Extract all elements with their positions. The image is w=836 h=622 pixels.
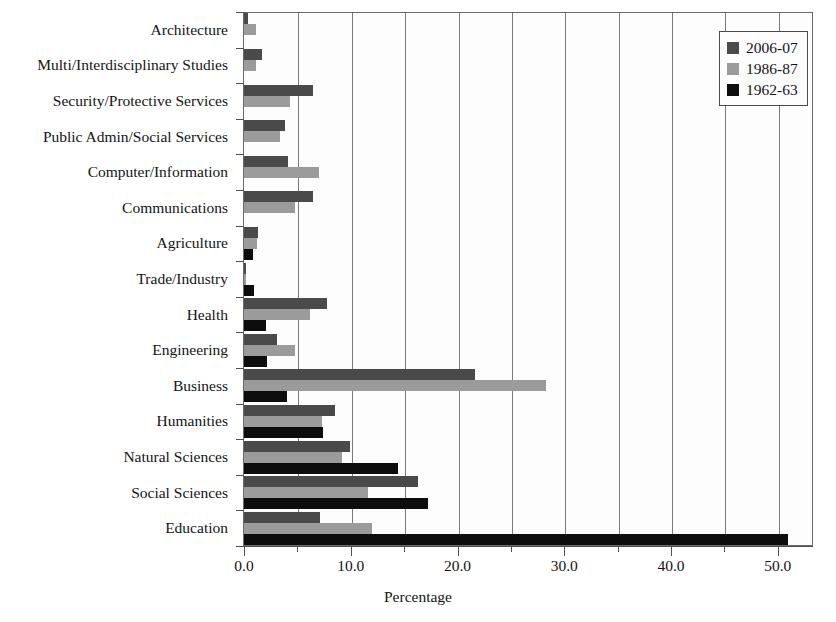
x-axis-minor-tick [618, 546, 619, 552]
legend-label: 2006-07 [746, 39, 798, 56]
legend-entry-2006-07: 2006-07 [727, 37, 798, 58]
y-axis-tick [236, 48, 244, 49]
y-axis-tick [236, 190, 244, 191]
bar [244, 227, 258, 238]
bar [244, 334, 277, 345]
bar [244, 369, 475, 380]
y-axis-tick [236, 119, 244, 120]
category-axis-labels: ArchitectureMulti/Interdisciplinary Stud… [0, 12, 236, 546]
y-axis-tick [236, 546, 244, 547]
bar [244, 49, 262, 60]
x-axis-tick-label: 20.0 [444, 557, 471, 575]
y-axis-tick [236, 226, 244, 227]
category-label: Humanities [157, 413, 228, 429]
bar [244, 523, 372, 534]
dark-gray-swatch [727, 42, 739, 54]
x-axis-line [243, 546, 813, 547]
y-axis-tick [236, 475, 244, 476]
bar-chart: ArchitectureMulti/Interdisciplinary Stud… [0, 0, 836, 622]
bar [244, 249, 253, 260]
category-label: Business [173, 378, 228, 394]
category-label: Trade/Industry [136, 271, 228, 287]
bar [244, 463, 398, 474]
bar [244, 167, 319, 178]
x-axis-tick-label: 0.0 [234, 557, 253, 575]
bar [244, 356, 267, 367]
bar [244, 202, 295, 213]
category-label: Social Sciences [131, 485, 228, 501]
bar [244, 85, 313, 96]
bar [244, 156, 288, 167]
x-axis-major-tick [671, 546, 672, 556]
y-axis-tick [236, 404, 244, 405]
bar [244, 274, 246, 285]
category-label: Agriculture [157, 235, 228, 251]
category-label: Natural Sciences [123, 449, 228, 465]
y-axis-tick [236, 368, 244, 369]
bar [244, 60, 256, 71]
category-label: Health [187, 307, 228, 323]
bar [244, 476, 418, 487]
bar [244, 534, 788, 545]
legend-entry-1962-63: 1962-63 [727, 79, 798, 100]
x-axis-minor-tick [724, 546, 725, 552]
y-axis-tick [236, 510, 244, 511]
legend: 2006-07 1986-87 1962-63 [719, 31, 808, 106]
y-axis-tick [236, 154, 244, 155]
bar [244, 416, 322, 427]
bar [244, 285, 254, 296]
category-label: Security/Protective Services [53, 93, 228, 109]
legend-label: 1962-63 [746, 81, 798, 98]
bar [244, 191, 313, 202]
y-axis-tick [236, 439, 244, 440]
bar [244, 452, 342, 463]
black-swatch [727, 84, 739, 96]
x-axis-major-tick [458, 546, 459, 556]
category-label: Engineering [152, 342, 228, 358]
bar [244, 441, 350, 452]
x-axis-tick-label: 50.0 [764, 557, 791, 575]
bar [244, 391, 287, 402]
bar [244, 120, 285, 131]
x-axis-major-tick [778, 546, 779, 556]
light-gray-swatch [727, 63, 739, 75]
bar [244, 309, 310, 320]
bar [244, 498, 428, 509]
x-axis-major-tick [564, 546, 565, 556]
bar [244, 131, 280, 142]
bar [244, 298, 327, 309]
x-axis-major-tick [244, 546, 245, 556]
legend-label: 1986-87 [746, 60, 798, 77]
bar [244, 13, 248, 24]
bar [244, 345, 295, 356]
y-axis-tick [236, 83, 244, 84]
category-label: Multi/Interdisciplinary Studies [37, 57, 228, 73]
x-axis-minor-tick [297, 546, 298, 552]
y-axis-tick [236, 12, 244, 13]
y-axis-tick [236, 297, 244, 298]
category-label: Architecture [151, 22, 228, 38]
x-axis-tick-label: 40.0 [657, 557, 684, 575]
bar [244, 96, 290, 107]
bar [244, 405, 335, 416]
x-axis-minor-tick [404, 546, 405, 552]
bar [244, 24, 256, 35]
bar [244, 512, 320, 523]
category-label: Education [165, 520, 228, 536]
y-axis-tick [236, 261, 244, 262]
bar [244, 238, 257, 249]
x-axis-major-tick [351, 546, 352, 556]
x-axis-title: Percentage [0, 588, 836, 606]
category-label: Public Admin/Social Services [43, 129, 228, 145]
category-label: Communications [122, 200, 228, 216]
bar [244, 263, 246, 274]
x-axis-minor-tick [511, 546, 512, 552]
category-label: Computer/Information [88, 164, 228, 180]
x-axis-tick-label: 10.0 [337, 557, 364, 575]
bar [244, 427, 323, 438]
bar [244, 380, 546, 391]
bar [244, 320, 266, 331]
y-axis-tick [236, 332, 244, 333]
bar [244, 487, 368, 498]
legend-entry-1986-87: 1986-87 [727, 58, 798, 79]
